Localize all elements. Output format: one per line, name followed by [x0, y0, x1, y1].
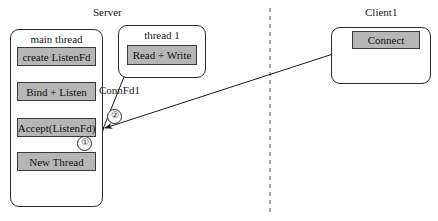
- thread1-title: thread 1: [118, 29, 206, 41]
- marker-one: ①: [77, 136, 92, 151]
- main-thread-title: main thread: [10, 33, 103, 45]
- server-title: Server: [93, 6, 122, 18]
- marker-two: ②: [107, 109, 122, 124]
- diagram-canvas: Server main thread create ListenFd Bind …: [0, 0, 438, 221]
- step-accept-listenfd[interactable]: Accept(ListenFd): [17, 118, 96, 137]
- step-connect[interactable]: Connect: [352, 31, 420, 49]
- step-read-write[interactable]: Read + Write: [127, 45, 197, 65]
- client-title: Client1: [365, 6, 397, 18]
- step-create-listenfd[interactable]: create ListenFd: [17, 47, 96, 66]
- connfd1-label: ConnFd1: [99, 84, 140, 96]
- step-new-thread[interactable]: New Thread: [17, 152, 96, 171]
- step-bind-listen[interactable]: Bind + Listen: [17, 82, 96, 101]
